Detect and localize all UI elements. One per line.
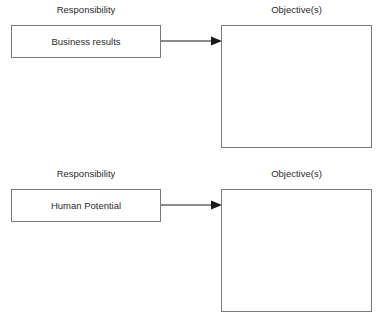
responsibility-box-label: Human Potential [51,200,121,212]
responsibility-box-label: Business results [51,36,120,48]
objective-column-caption: Objective(s) [221,4,372,16]
responsibility-box-business-results[interactable]: Business results [11,25,161,58]
objective-column-caption: Objective(s) [221,168,372,180]
right-arrow-icon [161,196,222,214]
responsibility-box-human-potential[interactable]: Human Potential [11,189,161,222]
responsibility-column-caption: Responsibility [11,4,161,16]
responsibility-column-caption: Responsibility [11,168,161,180]
objective-box-human-potential[interactable] [221,189,372,312]
diagram-canvas: Responsibility Objective(s) Business res… [0,0,382,325]
right-arrow-icon [161,32,222,50]
connector-human-potential [161,196,222,214]
connector-business-results [161,32,222,50]
objective-box-business-results[interactable] [221,25,372,148]
